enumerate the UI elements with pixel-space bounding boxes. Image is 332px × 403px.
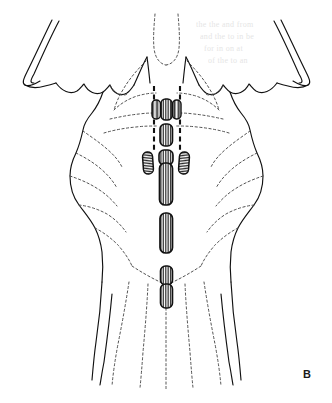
marker-m5: [160, 213, 173, 253]
bleed-through-line-4: of the to an: [208, 56, 248, 65]
bleed-through-line-2: and the to in be: [200, 32, 254, 41]
marker-m7: [161, 284, 173, 308]
marker-m6: [161, 266, 173, 285]
panel-label-b: B: [303, 369, 311, 380]
bleed-through-line-1: the the and from: [196, 20, 253, 29]
marker-m2: [160, 124, 173, 146]
marker-m4: [160, 163, 173, 205]
marker-right-lateral: [178, 152, 190, 175]
marker-paramedian-right: [173, 100, 182, 119]
marker-left-lateral: [142, 152, 154, 175]
brainstem-diagram: [0, 0, 332, 403]
figure-container: the the and from and the to in be for in…: [0, 0, 332, 403]
marker-m1: [161, 99, 172, 120]
marker-paramedian-left: [152, 100, 161, 119]
bleed-through-line-3: for in on at: [204, 44, 243, 53]
